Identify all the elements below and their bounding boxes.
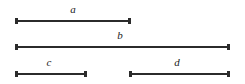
segment-line-c <box>15 73 87 75</box>
segment-label-a: a <box>70 4 76 15</box>
segment-group-d: d <box>0 0 245 84</box>
segment-endcap-b-left <box>15 44 18 50</box>
line-segment-diagram: a b c d <box>0 0 245 84</box>
segment-line-a <box>15 20 131 22</box>
segment-label-b: b <box>117 30 123 41</box>
segment-endcap-d-right <box>227 71 230 77</box>
segment-endcap-c-right <box>84 71 87 77</box>
segment-endcap-a-left <box>15 18 18 24</box>
segment-group-b: b <box>0 0 245 84</box>
segment-label-d: d <box>174 57 180 68</box>
segment-group-c: c <box>0 0 245 84</box>
segment-endcap-c-left <box>15 71 18 77</box>
segment-endcap-b-right <box>227 44 230 50</box>
segment-endcap-d-left <box>129 71 132 77</box>
segment-line-b <box>15 46 230 48</box>
segment-group-a: a <box>0 0 245 84</box>
segment-line-d <box>129 73 230 75</box>
segment-label-c: c <box>47 57 52 68</box>
segment-endcap-a-right <box>128 18 131 24</box>
